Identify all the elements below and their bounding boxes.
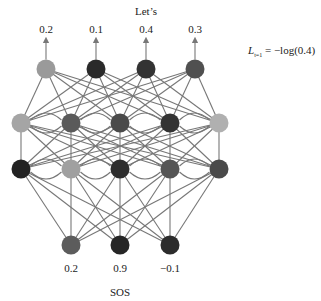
input-value-1: 0.2	[64, 262, 78, 274]
hidden-node-bottom	[12, 160, 31, 179]
output-node	[87, 60, 106, 79]
recurrent-arc	[130, 172, 161, 179]
hidden-node-top	[62, 114, 81, 133]
hidden-node-bottom	[161, 160, 180, 179]
output-prob-1: 0.2	[39, 23, 53, 35]
output-node	[37, 60, 56, 79]
recurrent-arc	[31, 172, 62, 179]
hidden-node-bottom	[210, 160, 229, 179]
hidden-node-bottom	[111, 160, 130, 179]
connection-edge	[170, 169, 219, 245]
output-node	[137, 60, 156, 79]
loss-formula: Lt=1 = −log(0.4)	[248, 44, 315, 58]
loss-expression: = −log(0.4)	[262, 44, 315, 56]
output-node	[186, 60, 205, 79]
input-node	[111, 236, 130, 255]
input-value-2: 0.9	[113, 262, 127, 274]
recurrent-arc	[130, 113, 161, 120]
hidden-node-top	[12, 114, 31, 133]
input-token-label: SOS	[110, 286, 130, 298]
input-node	[62, 236, 81, 255]
hidden-node-top	[161, 114, 180, 133]
output-prob-3: 0.4	[139, 23, 153, 35]
input-value-3: −0.1	[160, 262, 180, 274]
output-prob-2: 0.1	[89, 23, 103, 35]
recurrent-arc	[180, 172, 210, 179]
connection-edge	[21, 169, 170, 245]
recurrent-arc	[81, 113, 111, 120]
output-prob-4: 0.3	[188, 23, 202, 35]
input-node	[161, 236, 180, 255]
hidden-node-bottom	[62, 160, 81, 179]
recurrent-arc	[81, 172, 111, 179]
predicted-word-label: Let’s	[135, 5, 157, 17]
hidden-node-top	[210, 114, 229, 133]
connection-edge	[21, 169, 71, 245]
loss-subscript: t=1	[254, 52, 262, 58]
hidden-node-top	[111, 114, 130, 133]
